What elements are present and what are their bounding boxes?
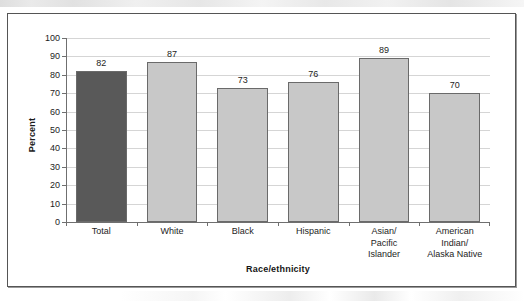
bar[interactable] xyxy=(147,62,198,222)
x-axis-category-label-line: Islander xyxy=(349,249,420,261)
x-axis-category-label-line: Black xyxy=(207,226,278,238)
x-axis-category-label-line: American xyxy=(419,226,490,238)
x-axis-category-label-line: White xyxy=(137,226,208,238)
x-axis-category-label: Black xyxy=(207,226,278,238)
scan-artifact-top-band xyxy=(0,0,524,7)
bar-slot: 82 xyxy=(66,38,137,222)
x-axis-category-label: Total xyxy=(66,226,137,238)
bar-value-label: 73 xyxy=(207,75,278,85)
x-axis-category-label: White xyxy=(137,226,208,238)
bar-value-label: 82 xyxy=(66,58,137,68)
chart-figure: Percent 0102030405060708090100 828773768… xyxy=(8,14,515,286)
bar-slot: 89 xyxy=(349,38,420,222)
x-axis-category-label: AmericanIndian/Alaska Native xyxy=(419,226,490,261)
x-axis-category-label-line: Total xyxy=(66,226,137,238)
scan-artifact-bottom-marks xyxy=(120,291,524,301)
chart-frame: Percent 0102030405060708090100 828773768… xyxy=(7,13,516,287)
x-axis-title: Race/ethnicity xyxy=(66,264,490,274)
bar-slot: 70 xyxy=(419,38,490,222)
y-axis-tick-label: 20 xyxy=(50,180,60,190)
bar-slot: 76 xyxy=(278,38,349,222)
bar-value-label: 87 xyxy=(137,49,208,59)
bar-slot: 73 xyxy=(207,38,278,222)
x-axis-category-label-line: Indian/ xyxy=(419,238,490,250)
x-axis-category-label-line: Pacific xyxy=(349,238,420,250)
bar[interactable] xyxy=(429,93,480,222)
y-axis-title: Percent xyxy=(24,80,40,190)
y-axis-tick-label: 90 xyxy=(50,51,60,61)
y-axis-tick-label: 100 xyxy=(45,33,60,43)
bar[interactable] xyxy=(359,58,410,222)
y-axis-tick-label: 60 xyxy=(50,107,60,117)
y-axis-tick-label: 70 xyxy=(50,88,60,98)
y-axis-tick-label: 50 xyxy=(50,125,60,135)
x-axis-category-label-line: Asian/ xyxy=(349,226,420,238)
bar-value-label: 76 xyxy=(278,69,349,79)
bar-slot: 87 xyxy=(137,38,208,222)
bar[interactable] xyxy=(76,71,127,222)
x-axis-category-label: Asian/PacificIslander xyxy=(349,226,420,261)
y-axis-tick-label: 0 xyxy=(55,217,60,227)
y-axis-tick-label: 30 xyxy=(50,162,60,172)
bar-value-label: 89 xyxy=(349,45,420,55)
bar[interactable] xyxy=(288,82,339,222)
y-axis-tick-label: 10 xyxy=(50,199,60,209)
y-axis-title-text: Percent xyxy=(27,118,37,152)
x-axis-category-label: Hispanic xyxy=(278,226,349,238)
bar[interactable] xyxy=(217,88,268,222)
plot-area: 0102030405060708090100 828773768970 xyxy=(66,38,490,222)
bars-group: 828773768970 xyxy=(66,38,490,222)
y-axis-tick-label: 80 xyxy=(50,70,60,80)
y-axis-tick-label: 40 xyxy=(50,143,60,153)
x-axis-category-label-line: Hispanic xyxy=(278,226,349,238)
x-axis-category-label-line: Alaska Native xyxy=(419,249,490,261)
bar-value-label: 70 xyxy=(419,80,490,90)
